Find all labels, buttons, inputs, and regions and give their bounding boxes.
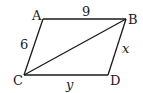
side-label-bd: x xyxy=(122,41,130,56)
vertex-label-b: B xyxy=(128,12,138,27)
side-label-cd: y xyxy=(65,77,74,92)
vertex-label-c: C xyxy=(13,73,23,88)
vertex-label-d: D xyxy=(110,73,120,88)
side-label-ac: 6 xyxy=(20,37,28,52)
vertex-label-a: A xyxy=(31,8,42,23)
parallelogram-diagram: A B C D 9 6 x y xyxy=(0,0,143,93)
side-label-ab: 9 xyxy=(82,4,90,19)
